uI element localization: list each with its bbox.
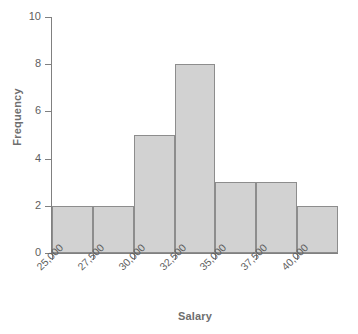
y-tick: 2 (45, 206, 51, 207)
y-tick-label: 10 (29, 10, 41, 22)
y-tick-label: 6 (35, 104, 41, 116)
histogram-chart: Frequency 0246810 25,00027,50030,00032,5… (0, 0, 358, 334)
histogram-bar (134, 135, 175, 253)
y-tick-label: 8 (35, 57, 41, 69)
y-tick: 6 (45, 111, 51, 112)
y-tick: 4 (45, 159, 51, 160)
y-tick-label: 2 (35, 199, 41, 211)
plot-area (52, 17, 338, 253)
y-tick-label: 4 (35, 152, 41, 164)
y-tick: 8 (45, 64, 51, 65)
histogram-bar (175, 64, 216, 253)
y-tick: 10 (45, 17, 51, 18)
y-axis-title: Frequency (11, 72, 23, 162)
x-axis-title: Salary (52, 310, 338, 322)
